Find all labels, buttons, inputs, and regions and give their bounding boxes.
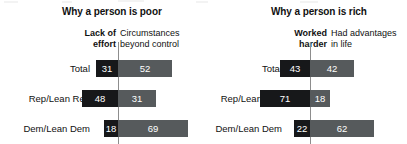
- panel-title: Why a person is poor: [62, 6, 162, 17]
- column-header-right-line2: in life: [331, 39, 407, 50]
- chart-row: Total 31 52: [0, 60, 204, 77]
- chart-row: Dem/Lean Dem 18 69: [0, 120, 204, 137]
- panel-why-person-is-poor: Why a person is poor Lack of effort Circ…: [0, 0, 204, 144]
- paired-diverging-bar-chart: Why a person is poor Lack of effort Circ…: [0, 0, 407, 144]
- column-header-left-line2: effort: [58, 39, 116, 50]
- chart-row: Rep/Lean Rep 48 31: [0, 90, 204, 107]
- chart-row: Rep/Lean Rep 71 18: [185, 90, 407, 107]
- bar-segment-right: 42: [310, 60, 354, 77]
- row-label: Rep/Lean Rep: [0, 90, 90, 107]
- bar-segment-left: 31: [96, 60, 118, 77]
- chart-row: Dem/Lean Dem 22 62: [185, 120, 407, 137]
- row-bar: 48 31: [82, 90, 156, 107]
- row-bar: 43 42: [280, 60, 354, 77]
- bar-segment-right: 52: [118, 60, 172, 77]
- row-label: Total: [185, 60, 282, 77]
- column-header-left-line2: harder: [267, 39, 327, 50]
- row-label: Total: [0, 60, 90, 77]
- panel-title: Why a person is rich: [271, 6, 367, 17]
- bar-segment-right: 31: [118, 90, 156, 107]
- row-bar: 71 18: [260, 90, 330, 107]
- column-header-left: Worked harder: [267, 28, 327, 50]
- bar-segment-left: 43: [280, 60, 310, 77]
- column-header-right-line1: Had advantages: [331, 28, 407, 39]
- bar-segment-right: 62: [310, 120, 374, 137]
- chart-row: Total 43 42: [185, 60, 407, 77]
- bar-segment-right: 18: [310, 90, 330, 107]
- bar-segment-left: 71: [260, 90, 310, 107]
- bar-segment-right: 69: [118, 120, 188, 137]
- row-bar: 31 52: [96, 60, 172, 77]
- bar-segment-left: 22: [294, 120, 310, 137]
- panel-why-person-is-rich: Why a person is rich Worked harder Had a…: [185, 0, 407, 144]
- bar-segment-left: 48: [82, 90, 118, 107]
- column-header-left-line1: Lack of: [58, 28, 116, 39]
- row-label: Dem/Lean Dem: [185, 120, 282, 137]
- row-label: Dem/Lean Dem: [0, 120, 90, 137]
- row-bar: 22 62: [294, 120, 374, 137]
- row-bar: 18 69: [104, 120, 188, 137]
- bar-segment-left: 18: [104, 120, 118, 137]
- column-header-right: Had advantages in life: [331, 28, 407, 50]
- column-header-left: Lack of effort: [58, 28, 116, 50]
- column-header-left-line1: Worked: [267, 28, 327, 39]
